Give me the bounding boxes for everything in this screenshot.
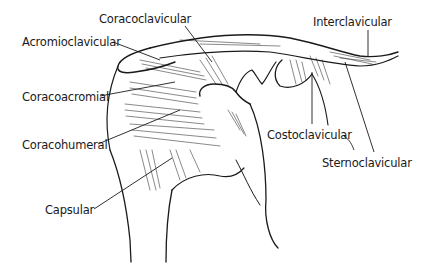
label-acromioclavicular: Acromioclavicular: [22, 37, 121, 49]
scapula: [107, 66, 118, 150]
leader-lines: [94, 26, 374, 209]
label-coracoclavicular: Coracoclavicular: [99, 14, 191, 26]
label-sternoclavicular: Sternoclavicular: [322, 158, 412, 170]
leader-coracohumeral: [98, 110, 180, 144]
label-coracohumeral: Coracohumeral: [22, 140, 107, 152]
humerus: [110, 150, 131, 262]
label-coracoacromial: Coracoacromial: [22, 92, 109, 104]
acromion: [118, 48, 175, 73]
coracoid-process: [200, 84, 250, 104]
label-capsular: Capsular: [45, 205, 94, 217]
label-interclavicular: Interclavicular: [313, 17, 392, 29]
shoulder-ligament-diagram: Coracoclavicular Acromioclavicular Inter…: [0, 0, 421, 277]
leader-capsular: [94, 158, 172, 209]
label-costoclavicular: Costoclavicular: [267, 130, 352, 142]
